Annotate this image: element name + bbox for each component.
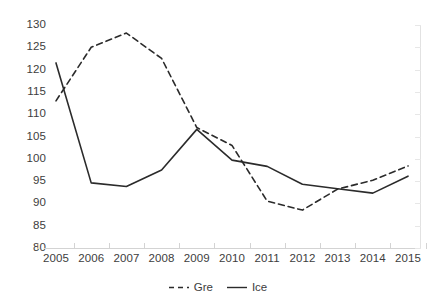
legend-item-ice: Ice [226, 281, 267, 293]
legend-item-gre: Gre [168, 281, 213, 293]
series-line-ice [56, 63, 408, 193]
legend-label-ice: Ice [252, 281, 267, 293]
series-line-gre [56, 33, 408, 210]
dashed-line-swatch-icon [168, 284, 190, 291]
plot-area: 13012512011511010510095908580 2005200620… [0, 0, 435, 305]
solid-line-swatch-icon [226, 284, 248, 291]
legend-label-gre: Gre [194, 281, 213, 293]
line-chart: 13012512011511010510095908580 2005200620… [0, 0, 435, 305]
series-layer [0, 0, 435, 305]
chart-legend: Gre Ice [0, 281, 435, 293]
